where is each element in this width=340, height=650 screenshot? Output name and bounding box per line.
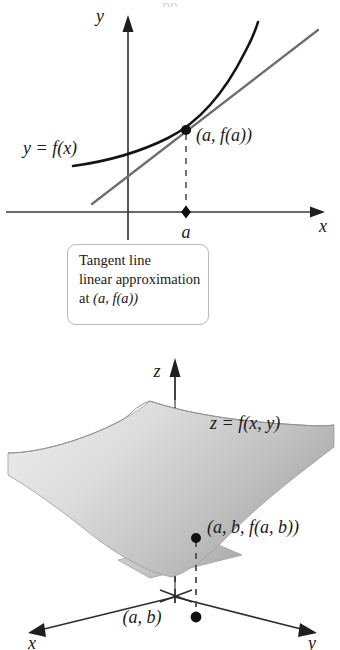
x-axis-label-3d: x (27, 633, 36, 650)
tangent-plane-diagram: z z = f(x, y) (a, b, f(a, b)) (a, b) x y (0, 325, 340, 650)
base-point-marker (191, 612, 202, 623)
y-axis-arrowhead (123, 15, 134, 32)
base-axes (28, 597, 317, 637)
x-axis-point-marker (181, 206, 191, 219)
tangent-line (92, 30, 318, 204)
surface-z-equals-f (8, 401, 334, 577)
caption-line-2: linear approximation (79, 270, 198, 289)
x-axis (6, 207, 325, 218)
caption-line-3: at (a, f(a)) (79, 289, 198, 308)
caption-line-3-math: (a, f(a)) (93, 290, 138, 306)
tangent-line-figure: y x y = f(x) (a, f(a)) a Tangent line li… (0, 0, 340, 325)
base-point-label: (a, b) (123, 607, 162, 628)
y-axis-label-3d: y (306, 633, 316, 650)
z-axis-label: z (152, 361, 160, 381)
z-axis-arrowhead (170, 358, 181, 377)
caption-line-1: Tangent line (79, 251, 198, 270)
tangent-plane-figure: z z = f(x, y) (a, b, f(a, b)) (a, b) x y (0, 325, 340, 650)
surface-point-label: (a, b, f(a, b)) (207, 517, 299, 538)
tangency-point-marker (181, 125, 191, 135)
x-tick-label-a: a (182, 222, 191, 242)
tangent-line-caption-box: Tangent line linear approximation at (a,… (67, 244, 209, 325)
origin-tick-marks (160, 590, 192, 602)
x-axis-label: x (318, 216, 327, 236)
y-axis-label: y (94, 6, 104, 26)
function-label: y = f(x) (21, 138, 77, 159)
caption-line-3-prefix: at (79, 290, 93, 306)
surface-label: z = f(x, y) (209, 413, 280, 434)
surface-point-marker (191, 533, 201, 543)
tangency-point-label: (a, f(a)) (196, 125, 252, 146)
y-axis (123, 15, 134, 240)
